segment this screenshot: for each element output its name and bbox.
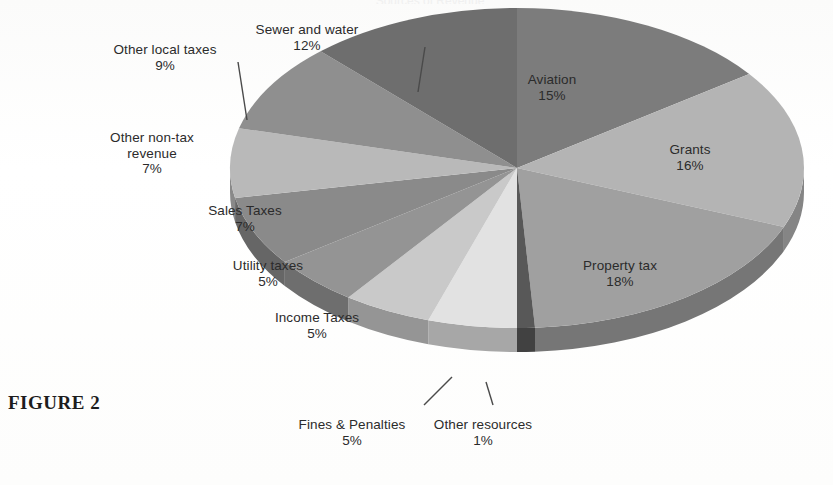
slice-label-other-non-tax-revenue: Other non-tax revenue7%	[77, 130, 227, 177]
figure-caption: FIGURE 2	[8, 392, 100, 414]
slice-label-name: Other non-tax revenue	[110, 130, 194, 161]
slice-label-percent: 1%	[408, 433, 558, 449]
slice-label-property-tax: Property tax18%	[545, 258, 695, 289]
leader-line-fines-penalties	[424, 377, 452, 405]
slice-label-percent: 7%	[170, 219, 320, 235]
slice-label-percent: 5%	[277, 433, 427, 449]
slice-label-name: Utility taxes	[233, 258, 303, 273]
slice-label-utility-taxes: Utility taxes5%	[193, 258, 343, 289]
slice-label-fines-penalties: Fines & Penalties5%	[277, 417, 427, 448]
slice-label-percent: 5%	[242, 326, 392, 342]
slice-label-aviation: Aviation15%	[477, 72, 627, 103]
pie-side-other-resources	[517, 328, 535, 352]
slice-label-name: Property tax	[583, 258, 657, 273]
leader-line-other-resources	[486, 382, 493, 405]
slice-label-name: Aviation	[528, 72, 577, 87]
slice-label-percent: 9%	[90, 58, 240, 74]
pie-chart: Aviation15%Grants16%Property tax18%Other…	[0, 0, 833, 485]
slice-label-sales-taxes: Sales Taxes7%	[170, 203, 320, 234]
slice-label-name: Other local taxes	[114, 42, 217, 57]
slice-label-other-resources: Other resources1%	[408, 417, 558, 448]
slice-label-percent: 15%	[477, 88, 627, 104]
slice-label-sewer-and-water: Sewer and water12%	[232, 22, 382, 53]
slice-label-percent: 12%	[232, 38, 382, 54]
slice-label-name: Grants	[669, 142, 710, 157]
slice-label-income-taxes: Income Taxes5%	[242, 310, 392, 341]
slice-label-percent: 7%	[77, 161, 227, 177]
slice-label-percent: 5%	[193, 274, 343, 290]
slice-label-name: Fines & Penalties	[299, 417, 406, 432]
slice-label-name: Sales Taxes	[208, 203, 282, 218]
slice-label-percent: 16%	[615, 158, 765, 174]
slice-label-name: Sewer and water	[256, 22, 359, 37]
slice-label-grants: Grants16%	[615, 142, 765, 173]
slice-label-name: Income Taxes	[275, 310, 359, 325]
slice-label-other-local-taxes: Other local taxes9%	[90, 42, 240, 73]
slice-label-percent: 18%	[545, 274, 695, 290]
slice-label-name: Other resources	[434, 417, 532, 432]
figure-page: Sources of Revenue Aviation15%Grants16%P…	[0, 0, 833, 485]
